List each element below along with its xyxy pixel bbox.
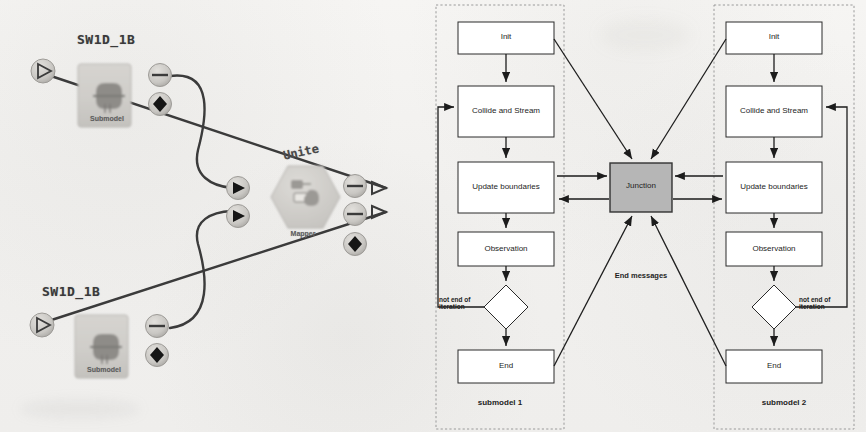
port-dash-icon-mapper-mid[interactable] <box>344 203 367 226</box>
port-play-filled-icon-lower[interactable] <box>227 205 250 228</box>
submodel-2-step-collide[interactable] <box>726 86 822 137</box>
submodel-block-bottom[interactable] <box>75 315 128 378</box>
port-dash-icon-mapper-top[interactable] <box>344 175 367 198</box>
submodel-1-step-collide[interactable] <box>458 86 554 137</box>
submodel-2-step-init[interactable] <box>726 22 822 54</box>
junction-box[interactable] <box>610 163 672 212</box>
submodel-execution-loop-flowchart: Init Collide and Stream Update boundarie… <box>433 0 866 432</box>
submodel-1-step-end[interactable] <box>458 350 554 383</box>
mapper-block[interactable] <box>271 166 340 228</box>
coupling-topology-canvas: SW1D_1B Submodel SW1D_1B Submodel Unite … <box>0 0 433 432</box>
port-dash-icon-top[interactable] <box>149 64 172 87</box>
port-diamond-icon-bottom[interactable] <box>146 344 169 367</box>
submodel-1-step-init[interactable] <box>458 22 554 54</box>
submodel-block-top[interactable] <box>78 64 131 127</box>
submodel-2-decision-diamond[interactable] <box>752 285 796 329</box>
port-diamond-icon-top[interactable] <box>149 93 172 116</box>
submodel-1-decision-diamond[interactable] <box>484 285 528 329</box>
port-play-outline-icon-top[interactable] <box>31 59 55 83</box>
flowchart-layer <box>433 0 866 432</box>
port-play-outline-icon-bottom[interactable] <box>30 313 54 337</box>
submodel-1-step-observe[interactable] <box>458 232 554 266</box>
submodel-2-step-observe[interactable] <box>726 232 822 266</box>
port-play-filled-icon-upper[interactable] <box>227 177 250 200</box>
submodel-1-step-boundary[interactable] <box>458 162 554 213</box>
left-connections-layer <box>0 0 433 432</box>
port-diamond-icon-mapper[interactable] <box>344 233 367 256</box>
figure-root: SW1D_1B Submodel SW1D_1B Submodel Unite … <box>0 0 866 432</box>
submodel-2-step-end[interactable] <box>726 350 822 383</box>
submodel-2-step-boundary[interactable] <box>726 162 822 213</box>
port-dash-icon-bottom[interactable] <box>146 315 169 338</box>
